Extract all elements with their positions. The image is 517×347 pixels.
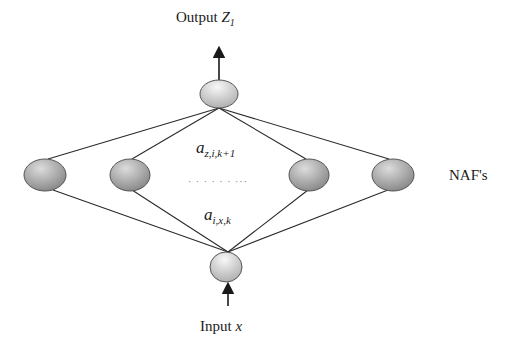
edge-hidden-1-input: [53, 190, 228, 252]
edge-hidden-4-input: [228, 190, 388, 252]
layer-label-text: NAF's: [449, 167, 488, 183]
neural-network-diagram: [0, 0, 517, 347]
output-variable: Z: [221, 9, 229, 25]
output-subscript: 1: [230, 17, 235, 28]
hidden-node-3: [289, 159, 329, 191]
edge-output-hidden-1: [48, 108, 219, 159]
output-label-text: Output: [176, 9, 218, 25]
output-node: [200, 80, 238, 108]
input-variable: x: [235, 318, 242, 334]
output-label: Output Z1: [176, 9, 235, 28]
upper-weight-subscript: z,i,k+1: [205, 147, 236, 159]
ellipsis-dots: · · · · · · ···: [188, 176, 248, 187]
upper-weight-label: az,i,k+1: [196, 138, 235, 159]
lower-weight-base: a: [204, 205, 213, 224]
hidden-node-2: [110, 159, 150, 191]
layer-label: NAF's: [449, 167, 488, 184]
upper-weight-base: a: [196, 138, 205, 157]
lower-weight-subscript: i,x,k: [213, 214, 231, 226]
edge-hidden-3-input: [228, 190, 308, 252]
input-label-text: Input: [200, 318, 232, 334]
hidden-node-4: [372, 159, 414, 191]
input-label: Input x: [200, 318, 242, 335]
edge-output-hidden-4: [219, 108, 389, 159]
ellipsis-text: · · · · · · ···: [188, 176, 248, 187]
lower-weight-label: ai,x,k: [204, 205, 231, 226]
hidden-node-1: [24, 159, 66, 191]
input-node: [210, 252, 242, 282]
